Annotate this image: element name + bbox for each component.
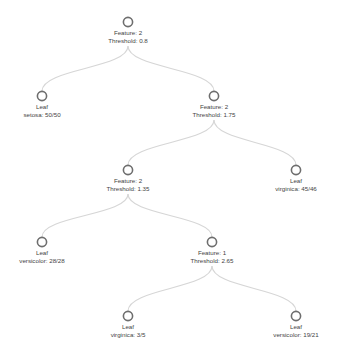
leaf-label: Leaf xyxy=(36,103,48,110)
tree-edge xyxy=(214,120,296,165)
node-circle-icon[interactable] xyxy=(291,311,300,320)
feature-label: Feature: 1 xyxy=(198,249,227,256)
feature-label: Feature: 2 xyxy=(200,103,229,110)
split-node[interactable]: Feature: 2Threshold: 1.35 xyxy=(107,165,151,192)
node-circle-icon[interactable] xyxy=(37,237,46,246)
split-node[interactable]: Feature: 1Threshold: 2.65 xyxy=(191,237,235,264)
node-circle-icon[interactable] xyxy=(123,165,132,174)
leaf-node[interactable]: Leafvirginica: 45/46 xyxy=(275,165,317,192)
leaf-label: Leaf xyxy=(290,177,302,184)
class-count-label: virginica: 45/46 xyxy=(275,185,317,192)
threshold-label: Threshold: 0.8 xyxy=(108,37,148,44)
leaf-node[interactable]: Leafvirginica: 3/5 xyxy=(111,311,146,338)
node-circle-icon[interactable] xyxy=(209,91,218,100)
node-circle-icon[interactable] xyxy=(207,237,216,246)
threshold-label: Threshold: 2.65 xyxy=(191,257,235,264)
leaf-label: Leaf xyxy=(290,323,302,330)
split-node[interactable]: Feature: 2Threshold: 0.8 xyxy=(108,17,148,44)
decision-tree-diagram: Feature: 2Threshold: 0.8Leafsetosa: 50/5… xyxy=(0,0,340,359)
tree-edge xyxy=(128,120,214,165)
class-count-label: versicolor: 28/28 xyxy=(19,257,65,264)
feature-label: Feature: 2 xyxy=(114,29,143,36)
class-count-label: versicolor: 19/21 xyxy=(273,331,319,338)
tree-edge xyxy=(128,194,212,237)
split-node[interactable]: Feature: 2Threshold: 1.75 xyxy=(193,91,237,118)
leaf-node[interactable]: Leafsetosa: 50/50 xyxy=(23,91,61,118)
node-circle-icon[interactable] xyxy=(37,91,46,100)
leaf-label: Leaf xyxy=(36,249,48,256)
leaf-label: Leaf xyxy=(122,323,134,330)
leaf-node[interactable]: Leafversicolor: 19/21 xyxy=(273,311,319,338)
tree-links xyxy=(42,46,296,311)
tree-edge xyxy=(42,46,128,91)
tree-edge xyxy=(42,194,128,237)
tree-edge xyxy=(212,266,296,311)
tree-nodes: Feature: 2Threshold: 0.8Leafsetosa: 50/5… xyxy=(19,17,319,338)
class-count-label: setosa: 50/50 xyxy=(23,111,61,118)
node-circle-icon[interactable] xyxy=(291,165,300,174)
tree-edge xyxy=(128,46,214,91)
feature-label: Feature: 2 xyxy=(114,177,143,184)
threshold-label: Threshold: 1.75 xyxy=(193,111,237,118)
class-count-label: virginica: 3/5 xyxy=(111,331,146,338)
threshold-label: Threshold: 1.35 xyxy=(107,185,151,192)
node-circle-icon[interactable] xyxy=(123,17,132,26)
tree-edge xyxy=(128,266,212,311)
node-circle-icon[interactable] xyxy=(123,311,132,320)
leaf-node[interactable]: Leafversicolor: 28/28 xyxy=(19,237,65,264)
